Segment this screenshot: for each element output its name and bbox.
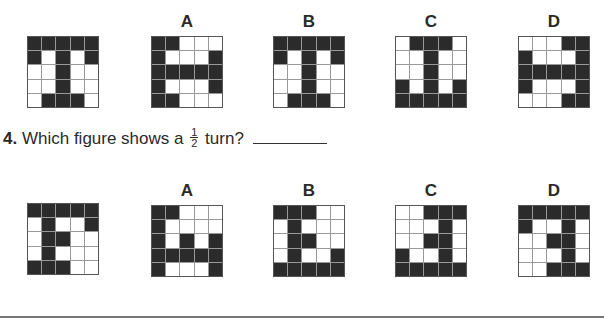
blank-cell bbox=[209, 94, 222, 107]
shaded-cell bbox=[166, 94, 179, 107]
shaded-cell bbox=[42, 204, 55, 217]
option-figure-a bbox=[151, 205, 223, 277]
blank-cell bbox=[424, 220, 437, 233]
blank-cell bbox=[180, 80, 193, 93]
blank-cell bbox=[410, 206, 423, 219]
blank-cell bbox=[180, 220, 193, 233]
blank-cell bbox=[85, 80, 98, 93]
blank-cell bbox=[317, 51, 330, 64]
shaded-cell bbox=[547, 263, 560, 276]
shaded-cell bbox=[439, 206, 452, 219]
shaded-cell bbox=[576, 263, 589, 276]
shaded-cell bbox=[424, 51, 437, 64]
shaded-cell bbox=[152, 37, 165, 50]
blank-cell bbox=[317, 206, 330, 219]
blank-cell bbox=[410, 51, 423, 64]
blank-cell bbox=[28, 232, 41, 245]
blank-cell bbox=[410, 80, 423, 93]
blank-cell bbox=[396, 51, 409, 64]
shaded-cell bbox=[85, 218, 98, 231]
shaded-cell bbox=[71, 37, 84, 50]
blank-cell bbox=[533, 220, 546, 233]
shaded-cell bbox=[302, 206, 315, 219]
blank-cell bbox=[396, 65, 409, 78]
shaded-cell bbox=[152, 220, 165, 233]
blank-cell bbox=[453, 220, 466, 233]
blank-cell bbox=[331, 220, 344, 233]
shaded-cell bbox=[56, 80, 69, 93]
shaded-cell bbox=[424, 94, 437, 107]
shaded-cell bbox=[302, 234, 315, 247]
shaded-cell bbox=[209, 51, 222, 64]
blank-cell bbox=[71, 65, 84, 78]
option-label-b: B bbox=[273, 12, 345, 32]
shaded-cell bbox=[288, 249, 301, 262]
blank-cell bbox=[28, 65, 41, 78]
fraction-denominator: 2 bbox=[190, 138, 198, 148]
blank-cell bbox=[519, 234, 532, 247]
blank-cell bbox=[166, 263, 179, 276]
shaded-cell bbox=[288, 263, 301, 276]
blank-cell bbox=[56, 247, 69, 260]
option-figure-a bbox=[151, 36, 223, 108]
shaded-cell bbox=[28, 37, 41, 50]
blank-cell bbox=[274, 65, 287, 78]
shaded-cell bbox=[317, 263, 330, 276]
shaded-cell bbox=[42, 94, 55, 107]
option-figure-d bbox=[518, 36, 590, 108]
shaded-cell bbox=[195, 249, 208, 262]
blank-cell bbox=[195, 206, 208, 219]
blank-cell bbox=[453, 249, 466, 262]
blank-cell bbox=[71, 247, 84, 260]
shaded-cell bbox=[547, 65, 560, 78]
shaded-cell bbox=[56, 204, 69, 217]
blank-cell bbox=[42, 65, 55, 78]
shaded-cell bbox=[56, 51, 69, 64]
blank-cell bbox=[396, 206, 409, 219]
shaded-cell bbox=[288, 206, 301, 219]
blank-cell bbox=[439, 80, 452, 93]
option-figure-d bbox=[518, 205, 590, 277]
blank-cell bbox=[410, 220, 423, 233]
shaded-cell bbox=[331, 263, 344, 276]
shaded-cell bbox=[288, 220, 301, 233]
blank-cell bbox=[576, 220, 589, 233]
shaded-cell bbox=[439, 249, 452, 262]
shaded-cell bbox=[42, 261, 55, 274]
shaded-cell bbox=[562, 263, 575, 276]
question-number: 4. bbox=[3, 129, 17, 148]
shaded-cell bbox=[396, 80, 409, 93]
shaded-cell bbox=[302, 51, 315, 64]
blank-cell bbox=[71, 80, 84, 93]
blank-cell bbox=[547, 37, 560, 50]
shaded-cell bbox=[71, 204, 84, 217]
option-figure-b bbox=[273, 205, 345, 277]
shaded-cell bbox=[42, 218, 55, 231]
shaded-cell bbox=[274, 206, 287, 219]
shaded-cell bbox=[152, 65, 165, 78]
option-figure-c bbox=[395, 36, 467, 108]
blank-cell bbox=[180, 51, 193, 64]
blank-cell bbox=[317, 80, 330, 93]
blank-cell bbox=[71, 261, 84, 274]
answer-blank[interactable] bbox=[253, 143, 327, 144]
shaded-cell bbox=[317, 94, 330, 107]
shaded-cell bbox=[576, 94, 589, 107]
blank-cell bbox=[85, 232, 98, 245]
blank-cell bbox=[71, 232, 84, 245]
blank-cell bbox=[533, 249, 546, 262]
shaded-cell bbox=[152, 263, 165, 276]
shaded-cell bbox=[576, 65, 589, 78]
blank-cell bbox=[547, 80, 560, 93]
shaded-cell bbox=[396, 94, 409, 107]
blank-cell bbox=[274, 234, 287, 247]
shaded-cell bbox=[85, 51, 98, 64]
shaded-cell bbox=[85, 204, 98, 217]
blank-cell bbox=[424, 249, 437, 262]
shaded-cell bbox=[562, 220, 575, 233]
shaded-cell bbox=[152, 94, 165, 107]
blank-cell bbox=[28, 218, 41, 231]
shaded-cell bbox=[562, 206, 575, 219]
shaded-cell bbox=[453, 94, 466, 107]
blank-cell bbox=[547, 94, 560, 107]
